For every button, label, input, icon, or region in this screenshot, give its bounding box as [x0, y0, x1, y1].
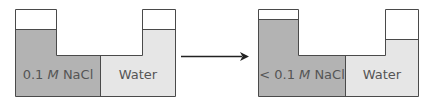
before-water-label: Water	[101, 67, 175, 83]
osmosis-diagram	[0, 0, 429, 99]
label-suffix: NaCl	[59, 67, 94, 82]
arrow-right-icon	[181, 52, 249, 61]
after-water-label: Water	[346, 67, 418, 83]
label-prefix: < 0.1	[259, 67, 299, 82]
molarity-unit: M	[299, 67, 310, 82]
before-salt-label: 0.1 M NaCl	[16, 67, 100, 83]
before-u-tube	[16, 10, 176, 97]
after-salt-label: < 0.1 M NaCl	[259, 67, 345, 83]
label-suffix: NaCl	[310, 67, 345, 82]
molarity-unit: M	[48, 67, 59, 82]
after-u-tube	[259, 10, 419, 97]
label-prefix: 0.1	[23, 67, 48, 82]
